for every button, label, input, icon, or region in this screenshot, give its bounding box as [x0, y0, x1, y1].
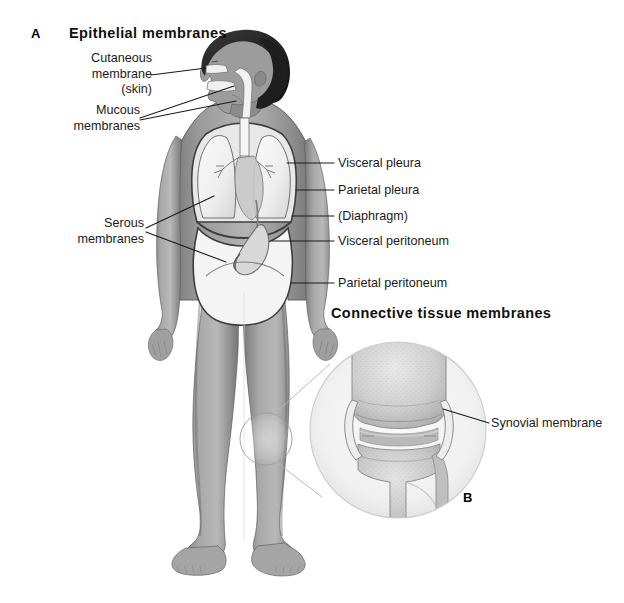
left-leg: [182, 286, 238, 560]
label-visceral-pleura: Visceral pleura: [338, 156, 421, 172]
membranes-figure: A Epithelial membranes Cutaneous membran…: [0, 0, 624, 603]
panel-b-letter: B: [463, 490, 473, 505]
panel-a-letter: A: [31, 26, 41, 41]
label-line: (skin): [0, 82, 152, 98]
panel-a-heading: Epithelial membranes: [69, 25, 227, 41]
label-parietal-peritoneum: Parietal peritoneum: [338, 276, 447, 292]
left-foot: [172, 546, 226, 575]
label-line: Mucous: [0, 103, 140, 119]
label-line: membranes: [0, 232, 144, 248]
label-cutaneous-membrane: Cutaneous membrane (skin): [0, 51, 152, 98]
leader-cutaneous: [151, 68, 206, 75]
left-arm: [152, 136, 182, 342]
label-parietal-pleura: Parietal pleura: [338, 183, 419, 199]
label-line: Cutaneous: [0, 51, 152, 67]
label-synovial-membrane: Synovial membrane: [491, 416, 602, 432]
right-foot: [252, 543, 305, 576]
label-line: membranes: [0, 119, 140, 135]
trachea: [240, 118, 249, 156]
body-illustration: [148, 30, 337, 576]
label-serous-membranes: Serous membranes: [0, 216, 144, 247]
label-line: membrane: [0, 67, 152, 83]
label-line: Serous: [0, 216, 144, 232]
label-visceral-peritoneum: Visceral peritoneum: [338, 234, 449, 250]
right-arm: [304, 138, 334, 342]
nasal-cavity: [206, 65, 228, 74]
label-diaphragm: (Diaphragm): [338, 209, 408, 225]
knee-joint-illustration: [310, 336, 486, 520]
label-mucous-membranes: Mucous membranes: [0, 103, 140, 134]
knee-highlight-circle: [240, 413, 292, 465]
panel-b-heading: Connective tissue membranes: [331, 305, 551, 321]
